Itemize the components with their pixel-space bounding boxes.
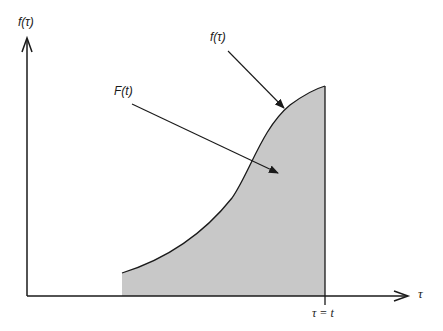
shaded-area-F-t — [122, 86, 325, 296]
y-axis-label: f(τ) — [18, 15, 34, 29]
area-label: F(t) — [114, 84, 133, 98]
x-axis-label: τ — [418, 286, 423, 302]
curve-pointer-arrow — [228, 51, 284, 108]
upper-limit-label: τ = t — [312, 306, 334, 321]
cdf-area-diagram — [0, 0, 443, 331]
curve-label: f(τ) — [210, 30, 226, 44]
area-pointer-arrow — [132, 104, 278, 173]
